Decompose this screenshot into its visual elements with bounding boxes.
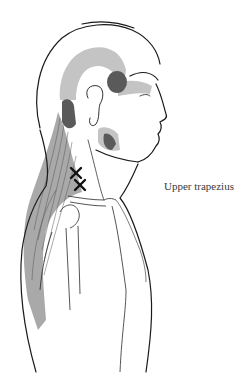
anatomical-illustration [0, 0, 249, 392]
skeletal-detail [40, 196, 146, 372]
figure-caption: Upper trapezius [164, 180, 234, 192]
trapezius-muscle [24, 112, 82, 330]
